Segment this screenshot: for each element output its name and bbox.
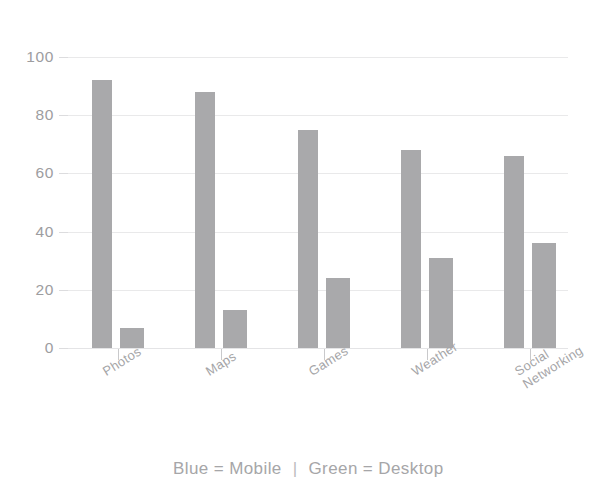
bar-desktop	[532, 243, 556, 348]
y-tick-label-20: 20	[36, 281, 54, 299]
legend-desktop: Green = Desktop	[309, 459, 444, 478]
bar-mobile	[298, 130, 318, 348]
y-tick-80	[59, 115, 68, 116]
y-tick-label-100: 100	[26, 48, 54, 66]
bar-mobile	[195, 92, 215, 348]
y-tick-40	[59, 232, 68, 233]
bar-group	[298, 57, 350, 348]
bar-mobile	[92, 80, 112, 348]
legend-mobile: Blue = Mobile	[173, 459, 282, 478]
y-axis: 020406080100	[0, 0, 68, 480]
y-tick-60	[59, 173, 68, 174]
bar-group	[401, 57, 453, 348]
plot-area	[68, 57, 568, 348]
bar-desktop	[326, 278, 350, 348]
y-tick-0	[59, 348, 68, 349]
bar-desktop	[429, 258, 453, 348]
bar-chart: 020406080100 PhotosMapsGamesWeatherSocia…	[0, 0, 596, 480]
bar-mobile	[401, 150, 421, 348]
bar-group	[92, 57, 144, 348]
y-tick-label-60: 60	[36, 164, 54, 182]
chart-legend: Blue = Mobile|Green = Desktop	[0, 439, 596, 480]
bar-group	[195, 57, 247, 348]
y-tick-20	[59, 290, 68, 291]
y-tick-label-40: 40	[36, 223, 54, 241]
y-tick-label-0: 0	[45, 339, 54, 357]
bar-mobile	[504, 156, 524, 348]
y-tick-label-80: 80	[36, 106, 54, 124]
bar-desktop	[223, 310, 247, 348]
y-tick-100	[59, 57, 68, 58]
legend-separator: |	[282, 459, 309, 478]
bar-group	[504, 57, 556, 348]
gridline-0	[68, 348, 568, 349]
